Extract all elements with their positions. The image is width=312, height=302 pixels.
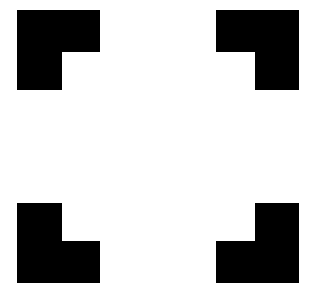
illusory-contour-svg xyxy=(0,0,312,302)
stimulus-canvas: Illusory contour figure xyxy=(0,0,312,302)
